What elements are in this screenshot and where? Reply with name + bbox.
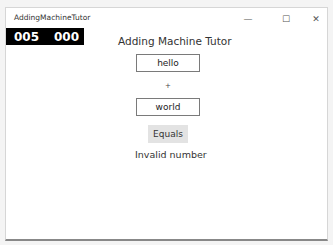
app-window: AddingMachineTutor — ☐ ✕ 005 000 Adding …: [5, 7, 328, 241]
maximize-icon[interactable]: ☐: [276, 12, 296, 26]
frame-counter: 005 000: [6, 28, 84, 45]
plus-label: +: [161, 82, 175, 90]
title-bar[interactable]: AddingMachineTutor — ☐ ✕: [6, 8, 327, 28]
window-title: AddingMachineTutor: [14, 13, 90, 22]
counter-left: 005: [14, 30, 39, 44]
result-text: Invalid number: [135, 149, 207, 160]
close-icon[interactable]: ✕: [306, 12, 326, 26]
page-title: Adding Machine Tutor: [118, 35, 232, 47]
second-number-input[interactable]: [136, 98, 200, 116]
equals-button[interactable]: Equals: [148, 125, 188, 143]
minimize-icon[interactable]: —: [238, 12, 258, 26]
first-number-input[interactable]: [136, 54, 200, 72]
counter-right: 000: [54, 30, 79, 44]
